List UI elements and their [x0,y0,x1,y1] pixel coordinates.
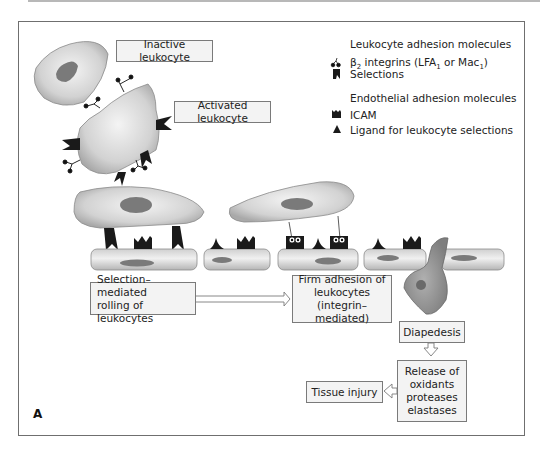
diapedesis-label: Diapedesis [399,321,465,343]
adhered-leukocyte [229,182,354,239]
rolling-step-label: Selection–mediated rolling of leukocytes [90,282,196,315]
legend-icam-icon [332,110,341,118]
label-line: Firm adhesion of [293,273,391,286]
legend-leukocyte-heading: Leukocyte adhesion molecules [350,38,511,51]
legend-icam: ICAM [350,109,377,122]
legend-selections: Selections [350,68,404,81]
inactive-leukocyte [34,42,108,106]
label-text: Inactive leukocyte [117,38,212,64]
arrow-rolling-to-adhesion [195,292,290,306]
integrins-text: ) [484,56,488,68]
label-lines: Firm adhesion of leukocytes (integrin–me… [293,273,391,325]
label-text: Diapedesis [403,326,461,339]
label-line: Release of [405,365,459,378]
label-line: leukocytes [293,286,391,299]
label-line: rolling of leukocytes [97,299,195,325]
legend-endothelial-heading: Endothelial adhesion molecules [350,92,516,105]
arrow-diapedesis-to-release [424,343,438,356]
panel-letter: A [33,407,42,421]
label-text: Activated leukocyte [175,99,270,125]
inactive-leukocyte-label: Inactive leukocyte [116,40,213,62]
integrins-text: integrins (LFA [361,56,436,68]
legend-ligand: Ligand for leukocyte selections [350,124,513,137]
label-text: Tissue injury [311,386,377,399]
beta-symbol: β [350,56,357,68]
integrins-text: or Mac [441,56,480,68]
activated-leukocyte-label: Activated leukocyte [174,101,271,123]
label-lines: Release of oxidants proteases elastases [405,365,459,417]
tissue-injury-label: Tissue injury [306,381,383,403]
legend-ligand-icon [333,125,341,133]
label-line: oxidants [405,378,459,391]
arrow-release-to-injury [384,384,397,398]
legend-integrin-icon [331,58,340,67]
label-line: Selection–mediated [97,273,195,299]
label-line: (integrin–mediated) [293,299,391,325]
label-line: proteases [405,391,459,404]
legend-selectin-icon [333,69,340,79]
release-label: Release of oxidants proteases elastases [397,360,467,422]
firm-adhesion-label: Firm adhesion of leukocytes (integrin–me… [292,275,392,323]
label-lines: Selection–mediated rolling of leukocytes [97,273,195,325]
label-line: elastases [405,404,459,417]
